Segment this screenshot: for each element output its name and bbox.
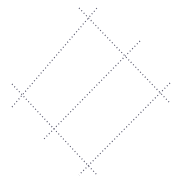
dotted-figure-svg	[0, 0, 175, 181]
figure-canvas	[0, 0, 175, 181]
canvas-background	[0, 0, 175, 181]
